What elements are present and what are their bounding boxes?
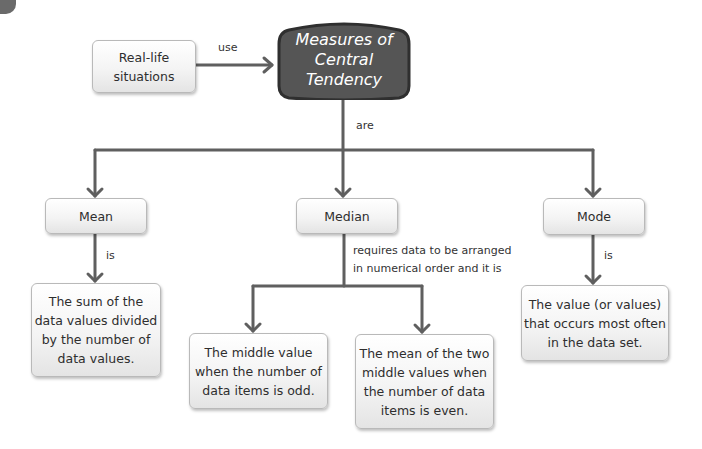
edge-label-mean-is: is — [106, 248, 115, 264]
central-node-label: Measures of Central Tendency — [295, 30, 392, 90]
node-mode-description: The value (or values) that occurs most o… — [521, 285, 669, 361]
central-node-measures-of-central-tendency: Measures of Central Tendency — [277, 20, 411, 100]
node-mean-description: The sum of the data values divided by th… — [31, 283, 161, 377]
node-mean-description-text: The sum of the data values divided by th… — [35, 292, 158, 368]
node-mode-description-text: The value (or values) that occurs most o… — [524, 295, 666, 352]
node-median-label: Median — [324, 207, 369, 226]
node-median: Median — [296, 198, 398, 234]
node-mode-label: Mode — [577, 207, 611, 226]
node-median-odd-description: The middle value when the number of data… — [189, 333, 328, 409]
node-mean: Mean — [45, 198, 147, 234]
node-mean-label: Mean — [79, 207, 113, 226]
edge-label-median-requires: requires data to be arranged in numerica… — [353, 242, 511, 278]
node-median-even-description: The mean of the two middle values when t… — [355, 334, 494, 429]
node-median-even-description-text: The mean of the two middle values when t… — [360, 344, 490, 420]
node-median-odd-description-text: The middle value when the number of data… — [195, 343, 322, 400]
edge-label-mode-is: is — [604, 248, 613, 264]
edge-label-use: use — [218, 40, 237, 56]
edge-label-are: are — [356, 118, 374, 134]
node-real-life-situations: Real-life situations — [92, 40, 196, 93]
node-real-life-situations-label: Real-life situations — [114, 48, 175, 86]
node-mode: Mode — [543, 198, 645, 235]
